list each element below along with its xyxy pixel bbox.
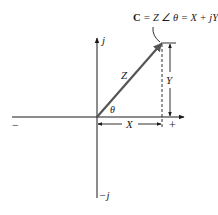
phasor-equation-text: = Z ∠ θ = X + jY [141,12,218,23]
positive-real-axis-label: + [169,119,176,131]
angle-label: θ [110,105,115,115]
imag-component-label: Y [166,75,172,86]
phasor-equation: C = Z ∠ θ = X + jY [133,13,218,24]
phasor-vector [97,44,161,117]
positive-imag-axis-label: j [102,35,105,46]
phasor-diagram: C = Z ∠ θ = X + jY j −j − + Z θ X Y [0,0,218,215]
negative-imag-axis-label: −j [99,190,109,201]
phasor-symbol: C [133,12,141,23]
equation-leader-line [153,27,160,42]
negative-real-axis-label: − [12,119,19,131]
real-component-label: X [126,119,133,130]
phasor-diagram-graphics [0,0,218,215]
magnitude-label: Z [121,70,127,81]
